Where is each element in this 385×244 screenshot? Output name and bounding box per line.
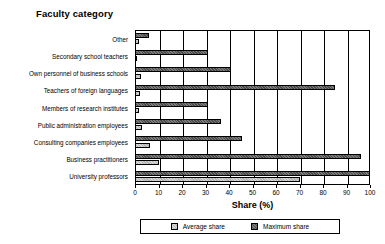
bar-average-share — [135, 125, 142, 130]
bar-chart: Faculty category OtherSecondary school t… — [0, 0, 385, 244]
legend-swatch-avg-icon — [171, 223, 178, 230]
bar-average-share — [135, 74, 141, 79]
bar-average-share — [135, 143, 150, 148]
chart-title: Faculty category — [36, 8, 113, 19]
legend-item: Average share — [171, 223, 225, 230]
x-axis-tick-label: 30 — [202, 189, 209, 196]
x-axis-tick-label: 70 — [296, 189, 303, 196]
bar-group — [135, 116, 370, 133]
legend-label: Maximum share — [263, 223, 309, 230]
x-axis-tick — [300, 185, 301, 188]
bar-maximum-share — [135, 119, 221, 124]
y-axis-label: Consulting companies employees — [34, 138, 128, 145]
y-axis-label: Business practitioners — [66, 156, 128, 163]
x-axis-tick — [253, 185, 254, 188]
bar-group — [135, 82, 370, 99]
bars-layer — [135, 30, 370, 185]
x-axis-tick-label: 0 — [133, 189, 137, 196]
x-axis-tick-label: 20 — [178, 189, 185, 196]
y-axis-label: Other — [112, 35, 128, 42]
bar-maximum-share — [135, 67, 231, 72]
chart-legend: Average shareMaximum share — [140, 219, 340, 234]
y-axis-label: Public administration employees — [38, 121, 128, 128]
x-axis-tick — [370, 185, 371, 188]
x-axis-tick — [206, 185, 207, 188]
bar-average-share — [135, 160, 159, 165]
bar-average-share — [135, 177, 300, 182]
bar-maximum-share — [135, 171, 370, 176]
bar-group — [135, 133, 370, 150]
x-axis-tick-labels: 0102030405060708090100 — [135, 189, 370, 200]
bar-average-share — [135, 39, 139, 44]
bar-average-share — [135, 56, 137, 61]
x-axis-tick-label: 40 — [225, 189, 232, 196]
bar-maximum-share — [135, 154, 361, 159]
x-axis-tick-label: 60 — [272, 189, 279, 196]
x-axis-tick — [159, 185, 160, 188]
x-axis-tick — [182, 185, 183, 188]
bar-maximum-share — [135, 102, 208, 107]
y-axis-label: Members of research institutes — [42, 104, 128, 111]
bar-maximum-share — [135, 50, 208, 55]
x-axis-tick-label: 10 — [155, 189, 162, 196]
x-axis-title: Share (%) — [135, 200, 370, 210]
bar-average-share — [135, 91, 140, 96]
legend-swatch-max-icon — [251, 223, 258, 230]
x-axis-tick-label: 100 — [365, 189, 376, 196]
x-axis-tick-label: 80 — [319, 189, 326, 196]
legend-label: Average share — [183, 223, 225, 230]
bar-group — [135, 168, 370, 185]
bar-average-share — [135, 108, 139, 113]
bar-group — [135, 64, 370, 81]
y-axis-label: Secondary school teachers — [52, 52, 128, 59]
x-axis-tick-label: 90 — [343, 189, 350, 196]
legend-item: Maximum share — [251, 223, 309, 230]
x-axis-tick — [347, 185, 348, 188]
x-axis-tick — [135, 185, 136, 188]
bar-group — [135, 151, 370, 168]
bar-maximum-share — [135, 33, 149, 38]
y-axis-label: Teachers of foreign languages — [44, 87, 128, 94]
bar-maximum-share — [135, 85, 335, 90]
y-axis-label: Own personnel of business schools — [29, 70, 128, 77]
x-axis-tick — [229, 185, 230, 188]
bar-maximum-share — [135, 136, 242, 141]
bar-group — [135, 47, 370, 64]
x-axis-tick — [276, 185, 277, 188]
x-axis-tick-label: 50 — [249, 189, 256, 196]
x-axis-tick — [323, 185, 324, 188]
y-axis-label: University professors — [69, 173, 128, 180]
bar-group — [135, 99, 370, 116]
y-axis-labels: OtherSecondary school teachersOwn person… — [0, 30, 132, 185]
bar-group — [135, 30, 370, 47]
